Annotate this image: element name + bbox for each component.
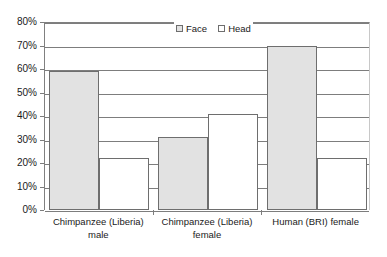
y-axis-tick-mark <box>40 93 44 94</box>
y-axis-tick-mark <box>40 187 44 188</box>
y-axis-tick-mark <box>40 69 44 70</box>
y-axis-tick-label: 50% <box>0 88 40 98</box>
legend-label: Face <box>186 23 207 34</box>
bar-chart: 0%10%20%30%40%50%60%70%80% FaceHead Chim… <box>0 0 387 257</box>
chart-legend: FaceHead <box>174 22 253 35</box>
x-axis-tick-label-0: Chimpanzee (Liberia)male <box>44 216 153 241</box>
legend-swatch-icon-face <box>176 25 183 32</box>
plot-area <box>44 22 370 210</box>
bars-layer <box>45 23 369 210</box>
bar-face-1 <box>158 137 208 210</box>
y-axis-tick-label: 20% <box>0 158 40 168</box>
y-axis-tick-label: 80% <box>0 17 40 27</box>
legend-entry-face: Face <box>176 23 207 34</box>
y-axis-tick-mark <box>40 140 44 141</box>
legend-entry-head: Head <box>218 23 251 34</box>
y-axis-tick-mark <box>40 116 44 117</box>
y-axis-tick-label: 0% <box>0 205 40 215</box>
bar-head-1 <box>208 114 258 210</box>
bar-head-0 <box>99 158 149 210</box>
y-axis-tick-mark <box>40 210 44 211</box>
bar-face-2 <box>267 46 317 211</box>
y-axis-tick-label: 30% <box>0 135 40 145</box>
x-axis-tick-label-2: Human (BRI) female <box>261 216 370 229</box>
y-axis-tick-label: 60% <box>0 64 40 74</box>
y-axis-tick-label: 10% <box>0 182 40 192</box>
x-axis-tick-label-1: Chimpanzee (Liberia)female <box>153 216 262 241</box>
gridline <box>45 211 369 212</box>
x-axis-tick-labels: Chimpanzee (Liberia)maleChimpanzee (Libe… <box>44 216 370 256</box>
bar-head-2 <box>317 158 367 210</box>
y-axis-tick-labels: 0%10%20%30%40%50%60%70%80% <box>0 22 40 210</box>
y-axis-tick-mark <box>40 46 44 47</box>
y-axis-tick-mark <box>40 22 44 23</box>
category-separator-tick <box>153 210 154 215</box>
y-axis-tick-label: 40% <box>0 111 40 121</box>
category-separator-tick <box>261 210 262 215</box>
y-axis-tick-label: 70% <box>0 41 40 51</box>
bar-face-0 <box>49 71 99 210</box>
legend-label: Head <box>228 23 251 34</box>
y-axis-tick-mark <box>40 163 44 164</box>
legend-swatch-icon-head <box>218 25 225 32</box>
